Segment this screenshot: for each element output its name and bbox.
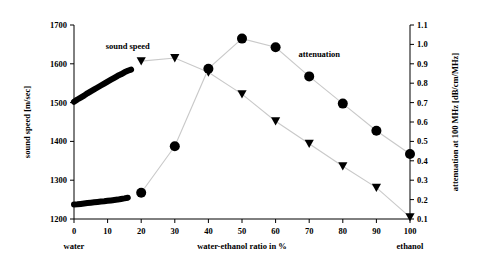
y-ticklabel-right-0.2: 0.2 bbox=[417, 195, 428, 205]
x-ticklabel-10: 10 bbox=[103, 226, 112, 236]
series-layer bbox=[74, 34, 415, 222]
y-axis-left-title: sound speed [m/sec] bbox=[22, 86, 32, 158]
y-ticklabel-left-1600: 1600 bbox=[50, 59, 67, 69]
marker-triangle-sound-speed bbox=[305, 140, 314, 148]
y-ticklabel-right-0.3: 0.3 bbox=[417, 175, 428, 185]
y-ticklabel-right-0.6: 0.6 bbox=[417, 117, 428, 127]
x-ticklabel-70: 70 bbox=[305, 226, 314, 236]
y-ticklabel-right-1.0: 1.0 bbox=[417, 39, 428, 49]
marker-circle-attenuation bbox=[405, 149, 415, 159]
x-ticklabel-0: 0 bbox=[72, 226, 76, 236]
x-ticklabel-40: 40 bbox=[204, 226, 213, 236]
x-axis-end-label-water: water bbox=[64, 241, 85, 251]
marker-circle-attenuation bbox=[271, 42, 281, 52]
x-ticklabel-20: 20 bbox=[137, 226, 146, 236]
x-ticklabel-90: 90 bbox=[372, 226, 381, 236]
x-ticklabel-30: 30 bbox=[171, 226, 180, 236]
annotation-attenuation: attenuation bbox=[298, 49, 340, 59]
label-layer: 1200130014001500160017000.10.20.30.40.50… bbox=[22, 20, 460, 251]
y-ticklabel-right-0.9: 0.9 bbox=[417, 59, 428, 69]
y-ticklabel-left-1700: 1700 bbox=[50, 20, 67, 30]
y-ticklabel-left-1500: 1500 bbox=[50, 98, 67, 108]
x-ticklabel-60: 60 bbox=[271, 226, 280, 236]
y-ticklabel-left-1200: 1200 bbox=[50, 214, 67, 224]
marker-circle-attenuation bbox=[338, 99, 348, 109]
series-line-attenuation bbox=[141, 39, 410, 193]
marker-circle-attenuation bbox=[304, 71, 314, 81]
y-ticklabel-right-0.8: 0.8 bbox=[417, 78, 428, 88]
y-ticklabel-right-0.5: 0.5 bbox=[417, 136, 428, 146]
y-ticklabel-right-0.4: 0.4 bbox=[417, 156, 428, 166]
y-ticklabel-left-1400: 1400 bbox=[50, 136, 67, 146]
dense-point-band-2 bbox=[74, 70, 131, 102]
axes-layer bbox=[70, 25, 414, 223]
y-ticklabel-right-0.1: 0.1 bbox=[417, 214, 428, 224]
marker-circle-attenuation bbox=[237, 34, 247, 44]
marker-triangle-sound-speed bbox=[405, 213, 414, 221]
y-ticklabel-right-0.7: 0.7 bbox=[417, 98, 428, 108]
x-ticklabel-50: 50 bbox=[238, 226, 247, 236]
marker-triangle-sound-speed bbox=[271, 117, 280, 125]
x-axis-end-label-ethanol: ethanol bbox=[397, 241, 425, 251]
marker-triangle-sound-speed bbox=[338, 162, 347, 170]
x-ticklabel-100: 100 bbox=[404, 226, 417, 236]
chart-figure: 1200130014001500160017000.10.20.30.40.50… bbox=[0, 0, 481, 264]
x-ticklabel-80: 80 bbox=[339, 226, 348, 236]
marker-circle-attenuation bbox=[170, 141, 180, 151]
y-axis-right-title: attenuation at 100 MHz [dB/cm/MHz] bbox=[450, 53, 460, 192]
x-axis-title: water-ethanol ratio in % bbox=[197, 241, 287, 251]
sound-speed-attenuation-chart: 1200130014001500160017000.10.20.30.40.50… bbox=[0, 0, 481, 264]
marker-circle-attenuation bbox=[136, 188, 146, 198]
marker-circle-attenuation bbox=[371, 126, 381, 136]
annotation-sound-speed: sound speed bbox=[106, 41, 150, 51]
y-ticklabel-left-1300: 1300 bbox=[50, 175, 67, 185]
dense-point-band-3 bbox=[74, 198, 128, 205]
series-line-sound-speed bbox=[141, 58, 410, 217]
y-ticklabel-right-1.1: 1.1 bbox=[417, 20, 428, 30]
marker-circle-attenuation bbox=[203, 64, 213, 74]
